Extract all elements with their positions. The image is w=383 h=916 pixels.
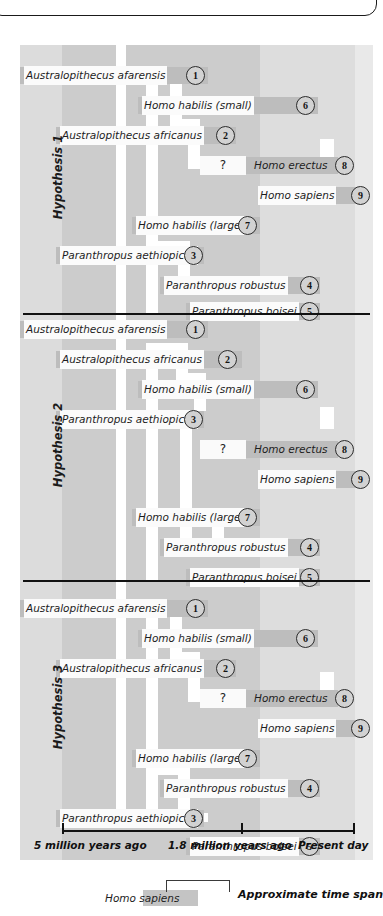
taxon-number: 9 bbox=[351, 719, 370, 738]
hypothesis-title-1: Hypothesis 1 bbox=[51, 117, 65, 237]
taxon-number: 6 bbox=[296, 380, 315, 399]
taxon-label: Australopithecus africanus bbox=[60, 350, 204, 369]
taxon-number: 7 bbox=[238, 508, 257, 527]
axis-tick bbox=[62, 823, 64, 834]
taxon-number: 3 bbox=[184, 246, 203, 265]
figure-legend: Homo sapiens Approximate time span bbox=[0, 868, 383, 916]
uncertainty-marker: ? bbox=[200, 689, 246, 708]
taxon-label: Homo sapiens bbox=[258, 719, 336, 738]
taxon-label: Paranthropus aethiopicus bbox=[60, 410, 198, 429]
uncertainty-marker: ? bbox=[200, 440, 246, 459]
taxon-number: 8 bbox=[335, 689, 354, 708]
phylogeny-chart: Australopithecus afarensis 1 Homo habili… bbox=[20, 45, 373, 860]
taxon-label: Homo habilis (large) bbox=[136, 749, 247, 768]
branch-gap bbox=[180, 411, 192, 553]
taxon-label: Paranthropus aethiopicus bbox=[60, 809, 198, 828]
uncertainty-marker: ? bbox=[200, 156, 246, 175]
taxon-number: 6 bbox=[296, 629, 315, 648]
taxon-number: 9 bbox=[351, 186, 370, 205]
taxon-number: 2 bbox=[216, 126, 235, 145]
taxon-number: 9 bbox=[351, 470, 370, 489]
top-card-edge bbox=[0, 0, 377, 16]
taxon-label: Paranthropus robustus bbox=[164, 779, 288, 798]
hypothesis-title-2: Hypothesis 2 bbox=[51, 385, 65, 505]
taxon-number: 3 bbox=[184, 809, 203, 828]
axis-tick bbox=[353, 823, 355, 834]
taxon-number: 4 bbox=[300, 538, 319, 557]
taxon-number: 7 bbox=[238, 216, 257, 235]
taxon-label: Homo habilis (small) bbox=[142, 629, 254, 648]
branch-gap bbox=[116, 45, 126, 313]
taxon-number: 2 bbox=[216, 659, 235, 678]
axis-tick-label: Present day bbox=[298, 839, 368, 851]
legend-caption: Approximate time span bbox=[238, 888, 383, 901]
taxon-label: Homo habilis (large) bbox=[136, 216, 247, 235]
taxon-number: 7 bbox=[238, 749, 257, 768]
legend-bracket-icon bbox=[166, 880, 230, 892]
taxon-number: 2 bbox=[218, 350, 237, 369]
taxon-number: 1 bbox=[186, 66, 205, 85]
axis-tick-label: 1.8 million years ago bbox=[168, 839, 292, 851]
taxon-label: Paranthropus robustus bbox=[164, 276, 288, 295]
axis-tick bbox=[241, 823, 243, 834]
panel-divider-1 bbox=[23, 313, 370, 315]
taxon-label: Homo sapiens bbox=[258, 186, 336, 205]
taxon-label: Australopithecus afarensis bbox=[24, 320, 167, 339]
taxon-label: Paranthropus robustus bbox=[164, 538, 288, 557]
taxon-number: 8 bbox=[335, 440, 354, 459]
hypothesis-panel-1: Australopithecus afarensis 1 Homo habili… bbox=[20, 45, 373, 313]
hypothesis-panel-3: Australopithecus afarensis 1 Homo habili… bbox=[20, 580, 373, 825]
taxon-label: Australopithecus afarensis bbox=[24, 599, 167, 618]
taxon-label: Homo erectus bbox=[252, 689, 330, 708]
taxon-number: 8 bbox=[335, 156, 354, 175]
taxon-number: 4 bbox=[300, 779, 319, 798]
axis-tick-label: 5 million years ago bbox=[34, 839, 147, 851]
taxon-label: Homo habilis (small) bbox=[142, 380, 254, 399]
panel-divider-2 bbox=[23, 580, 370, 582]
taxon-label: Australopithecus afarensis bbox=[24, 66, 167, 85]
taxon-label: Australopithecus africanus bbox=[60, 659, 204, 678]
taxon-number: 1 bbox=[186, 320, 205, 339]
taxon-label: Homo habilis (large) bbox=[136, 508, 247, 527]
hypothesis-title-3: Hypothesis 3 bbox=[51, 647, 65, 767]
taxon-label: Homo habilis (small) bbox=[142, 96, 254, 115]
taxon-label: Homo sapiens bbox=[258, 470, 336, 489]
branch-gap bbox=[146, 343, 158, 581]
taxon-label: Homo erectus bbox=[252, 440, 330, 459]
time-axis-line bbox=[62, 830, 355, 832]
taxon-label: Homo erectus bbox=[252, 156, 330, 175]
taxon-label: Paranthropus aethiopicus bbox=[60, 246, 198, 265]
branch-gap bbox=[320, 407, 334, 429]
taxon-number: 1 bbox=[186, 599, 205, 618]
taxon-number: 6 bbox=[296, 96, 315, 115]
hypothesis-panel-2: Australopithecus afarensis 1 Australopit… bbox=[20, 313, 373, 580]
taxon-number: 4 bbox=[300, 276, 319, 295]
taxon-label: Australopithecus africanus bbox=[60, 126, 204, 145]
taxon-number: 3 bbox=[184, 410, 203, 429]
